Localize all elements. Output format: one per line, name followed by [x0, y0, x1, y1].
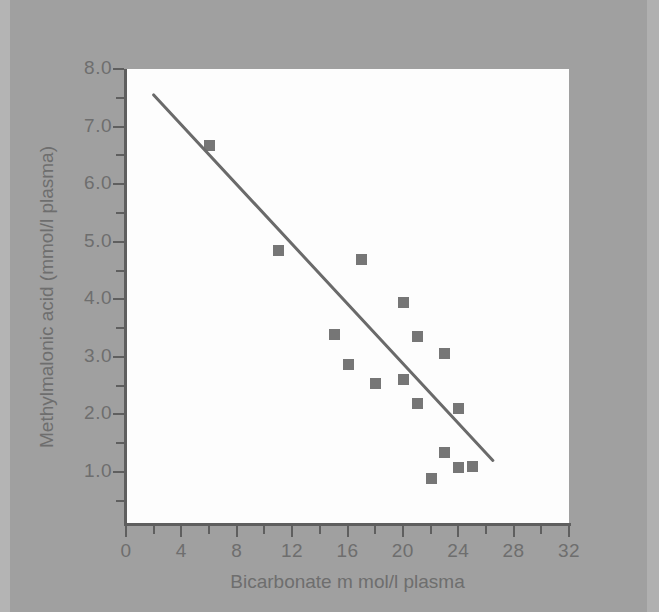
y-tick-minor: [116, 442, 124, 444]
x-tick-minor: [374, 526, 376, 534]
y-axis-line: [124, 69, 127, 526]
y-tick-minor: [116, 270, 124, 272]
x-tick-major: [568, 526, 570, 537]
y-tick-major: [113, 126, 124, 128]
x-tick-label: 12: [272, 540, 312, 562]
scatter-point: [467, 461, 478, 472]
scatter-point: [370, 378, 381, 389]
y-tick-minor: [116, 327, 124, 329]
y-tick-label-text: 6.0: [56, 172, 112, 194]
y-tick-label-text: 8.0: [56, 57, 112, 79]
y-tick-label-text: 5.0: [56, 230, 112, 252]
x-tick-major: [347, 526, 349, 537]
y-tick-major: [113, 241, 124, 243]
y-tick-label-text: 4.0: [56, 287, 112, 309]
y-tick-major: [113, 471, 124, 473]
y-tick-label: 8.0: [46, 57, 112, 81]
x-tick-major: [402, 526, 404, 537]
y-tick-minor: [116, 154, 124, 156]
plot-panel: [126, 69, 569, 524]
x-tick-major: [513, 526, 515, 537]
scatter-point: [439, 447, 450, 458]
x-tick-major: [291, 526, 293, 537]
scatter-point: [412, 331, 423, 342]
scatter-point: [426, 473, 437, 484]
right-margin-band: [647, 0, 659, 612]
x-tick-minor: [485, 526, 487, 534]
y-tick-minor: [116, 385, 124, 387]
y-tick-major: [113, 413, 124, 415]
x-tick-label: 4: [161, 540, 201, 562]
scatter-point: [356, 254, 367, 265]
scatter-point: [439, 348, 450, 359]
scatter-point: [453, 403, 464, 414]
scatter-point: [412, 398, 423, 409]
x-tick-minor: [208, 526, 210, 534]
x-tick-label: 8: [217, 540, 257, 562]
scatter-point: [204, 140, 215, 151]
y-tick-major: [113, 298, 124, 300]
x-tick-label: 20: [383, 540, 423, 562]
x-tick-label: 28: [494, 540, 534, 562]
y-tick-minor: [116, 500, 124, 502]
y-tick-major: [113, 183, 124, 185]
x-tick-minor: [319, 526, 321, 534]
scatter-point: [343, 359, 354, 370]
x-tick-major: [236, 526, 238, 537]
y-tick-minor: [116, 97, 124, 99]
x-tick-label: 24: [438, 540, 478, 562]
x-tick-label: 0: [106, 540, 146, 562]
x-tick-major: [180, 526, 182, 537]
scatter-point: [273, 245, 284, 256]
scatter-point: [329, 329, 340, 340]
y-tick-label-text: 1.0: [56, 460, 112, 482]
scatter-point: [398, 297, 409, 308]
y-tick-label-text: 7.0: [56, 115, 112, 137]
x-tick-label: 16: [328, 540, 368, 562]
figure-container: 1.02.03.04.05.06.07.08.0 048121620242832…: [0, 0, 659, 612]
scatter-point: [453, 462, 464, 473]
left-margin-band: [0, 0, 10, 612]
x-tick-major: [457, 526, 459, 537]
x-tick-minor: [263, 526, 265, 534]
y-axis-title: Methylmalonic acid (mmol/l plasma): [36, 87, 58, 507]
y-tick-label-text: 2.0: [56, 402, 112, 424]
x-axis-title: Bicarbonate m mol/l plasma: [126, 571, 569, 593]
x-tick-minor: [540, 526, 542, 534]
x-tick-minor: [153, 526, 155, 534]
y-tick-label-text: 3.0: [56, 345, 112, 367]
scatter-point: [398, 374, 409, 385]
x-tick-label: 32: [549, 540, 589, 562]
y-tick-major: [113, 356, 124, 358]
x-tick-minor: [430, 526, 432, 534]
y-tick-minor: [116, 212, 124, 214]
x-tick-major: [125, 526, 127, 537]
y-tick-major: [113, 68, 124, 70]
